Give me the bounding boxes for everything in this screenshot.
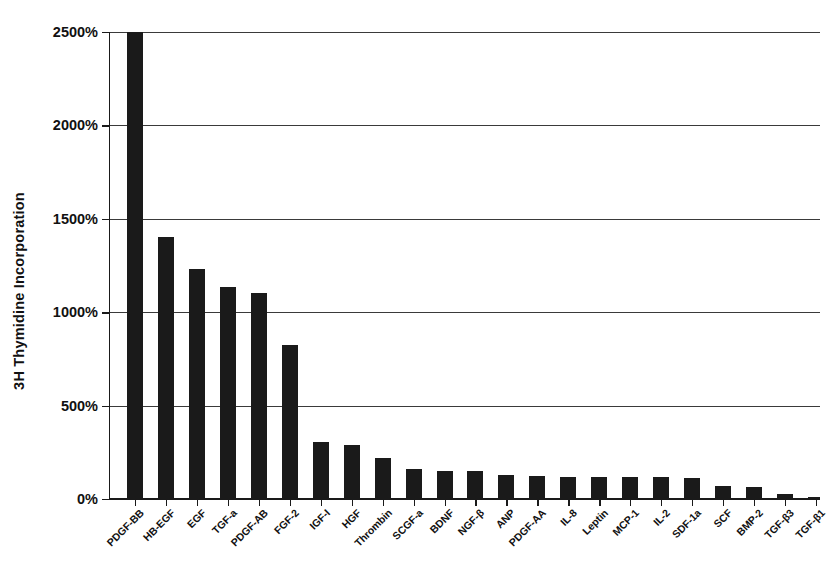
bar bbox=[344, 445, 360, 498]
x-tick-mark bbox=[414, 499, 415, 506]
x-tick-label-text: ANP bbox=[494, 507, 518, 531]
bar bbox=[158, 237, 174, 498]
x-tick-label-text: IL-2 bbox=[651, 507, 672, 528]
x-tick-label: TGF-β1 bbox=[820, 482, 838, 516]
x-tick-label: IL-8 bbox=[572, 495, 593, 516]
x-tick-mark bbox=[599, 499, 600, 506]
bar-chart-figure: 3H Thymidine Incorporation 2500%2000%150… bbox=[0, 0, 838, 586]
bars-group bbox=[109, 32, 820, 499]
x-tick-mark bbox=[383, 499, 384, 506]
x-tick-mark bbox=[228, 499, 229, 506]
x-tick-mark bbox=[754, 499, 755, 506]
x-tick-label-text: IGF-I bbox=[307, 507, 332, 532]
x-tick-mark bbox=[166, 499, 167, 506]
x-tick-mark bbox=[723, 499, 724, 506]
y-tick-label: 1500% bbox=[53, 211, 98, 227]
x-tick-mark bbox=[661, 499, 662, 506]
x-tick-mark bbox=[197, 499, 198, 506]
bar bbox=[251, 293, 267, 498]
x-tick-label: IL-2 bbox=[665, 495, 686, 516]
x-tick-label-text: IL-8 bbox=[558, 507, 579, 528]
x-tick-mark bbox=[537, 499, 538, 506]
x-tick-label-text: EGF bbox=[184, 507, 208, 531]
plot-area: 2500%2000%1500%1000%500%0% bbox=[109, 32, 820, 499]
x-tick-mark bbox=[816, 499, 817, 506]
y-tick-label: 2500% bbox=[53, 24, 98, 40]
bar bbox=[127, 32, 143, 498]
x-tick-mark bbox=[290, 499, 291, 506]
x-axis-labels: PDGF-BBHB-EGFEGFTGF-aPDGF-ABFGF-2IGF-IHG… bbox=[109, 499, 820, 586]
y-tick-label: 500% bbox=[61, 398, 98, 414]
x-tick-mark bbox=[135, 499, 136, 506]
y-tick-label: 2000% bbox=[53, 117, 98, 133]
bar bbox=[220, 287, 236, 498]
bar bbox=[529, 476, 545, 498]
x-tick-mark bbox=[692, 499, 693, 506]
x-tick-mark bbox=[259, 499, 260, 506]
x-tick-label-text: PDGF-BB bbox=[104, 507, 146, 549]
x-tick-mark bbox=[630, 499, 631, 506]
y-tick-label: 1000% bbox=[53, 304, 98, 320]
x-tick-mark bbox=[352, 499, 353, 506]
bar bbox=[746, 487, 762, 498]
x-tick-mark bbox=[321, 499, 322, 506]
y-tick-label: 0% bbox=[77, 491, 98, 507]
x-tick-label-text: SCF bbox=[711, 507, 734, 530]
x-tick-mark bbox=[506, 499, 507, 506]
bar bbox=[591, 477, 607, 498]
x-tick-mark bbox=[568, 499, 569, 506]
x-tick-mark bbox=[475, 499, 476, 506]
x-tick-mark bbox=[445, 499, 446, 506]
x-tick-label-text: HGF bbox=[339, 507, 363, 531]
bar bbox=[684, 478, 700, 498]
bar bbox=[375, 458, 391, 498]
y-axis-title: 3H Thymidine Incorporation bbox=[11, 141, 27, 441]
x-tick-mark bbox=[785, 499, 786, 506]
bar bbox=[189, 269, 205, 498]
